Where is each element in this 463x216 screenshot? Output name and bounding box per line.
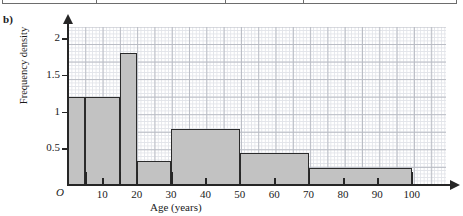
table-divider <box>303 0 304 3</box>
x-axis-tick <box>377 178 379 185</box>
y-axis-arrow-icon <box>63 14 73 24</box>
part-label: b) <box>3 13 13 25</box>
x-axis-tick <box>343 178 345 185</box>
x-axis-tick <box>120 172 122 185</box>
x-axis-tick <box>85 172 87 185</box>
x-axis-tick <box>102 178 104 185</box>
x-axis-tick <box>274 178 276 185</box>
y-axis-tick-label: 1 <box>38 105 60 117</box>
y-axis-title: Frequency density <box>18 11 29 121</box>
table-fragment <box>2 0 457 4</box>
y-axis-tick <box>62 38 69 40</box>
x-axis-tick-label: 100 <box>392 188 432 200</box>
y-axis-tick <box>62 112 69 114</box>
y-axis-tick <box>62 148 69 150</box>
x-axis-tick <box>240 172 242 185</box>
x-axis-tick <box>137 172 139 185</box>
histogram-bar <box>68 97 85 185</box>
y-axis-tick-label: 0.5 <box>38 141 60 153</box>
y-axis-tick <box>62 75 69 77</box>
x-axis-tick <box>171 172 173 185</box>
histogram-figure: b) 102030405060708090100 0.511.52 O Freq… <box>0 0 463 216</box>
plot-area <box>68 27 446 185</box>
histogram-bar <box>137 161 171 185</box>
x-axis-tick <box>412 172 414 185</box>
y-axis <box>67 22 69 186</box>
table-divider <box>96 0 97 3</box>
x-axis-title: Age (years) <box>150 201 202 213</box>
x-axis-tick <box>309 172 311 185</box>
x-axis-arrow-icon <box>450 180 460 190</box>
x-axis-tick <box>205 178 207 185</box>
x-axis <box>67 184 452 186</box>
histogram-bar <box>120 53 137 185</box>
y-axis-tick-label: 2 <box>38 31 60 43</box>
histogram-bar <box>85 97 119 185</box>
table-divider <box>225 0 226 3</box>
origin-label: O <box>56 186 64 198</box>
histogram-bar <box>309 168 412 185</box>
y-axis-tick-label: 1.5 <box>38 68 60 80</box>
histogram-bar <box>171 129 240 185</box>
